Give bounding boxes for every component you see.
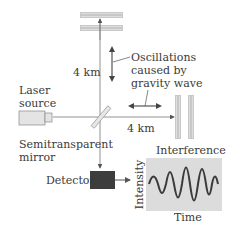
mirror-label-1: Semitransparent [19,139,113,150]
graph-y-axis-label: Intensity [133,159,146,211]
laser-source [19,111,52,125]
interference-graph [146,158,222,211]
mirror-label-2: mirror [19,152,55,163]
graph-title: Interference [156,145,226,156]
right-arm-length-label: 4 km [127,123,155,134]
graph-x-axis-label: Time [174,212,202,223]
oscillations-label-1: Oscillations [131,52,196,63]
oscillations-label-3: gravity wave [131,78,202,89]
top-arm-length-label: 4 km [73,67,101,78]
detector-label: Detector [46,175,95,186]
laser-label-1: Laser [19,85,50,96]
oscillations-label-2: caused by [131,65,187,76]
waveform [146,158,222,211]
laser-label-2: source [19,98,56,109]
